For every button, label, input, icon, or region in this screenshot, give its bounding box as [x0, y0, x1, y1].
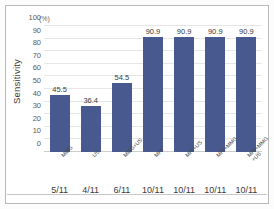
x-axis-category-labels: MMGUSMMG+USMRIMRI+USMRI+MMGMRI+MMG+US — [44, 153, 262, 179]
y-axis-tick-label: 10 — [33, 126, 41, 135]
x-axis-category-cell: MMG — [44, 153, 75, 179]
bar-group[interactable]: 90.9 — [200, 26, 231, 152]
bar-value-label: 36.4 — [83, 96, 98, 105]
x-axis-category-cell: MRI+MMG+US — [231, 153, 262, 179]
y-axis-tick-label: 40 — [33, 88, 41, 97]
x-axis-category-cell: US — [75, 153, 106, 179]
bar[interactable] — [174, 37, 194, 152]
y-axis-tick-label: 90 — [33, 25, 41, 34]
bar[interactable] — [143, 37, 163, 152]
bar-value-label: 90.9 — [146, 27, 161, 36]
y-axis-tick-label: 80 — [33, 38, 41, 47]
bar[interactable] — [205, 37, 225, 152]
bar-value-label: 90.9 — [208, 27, 223, 36]
x-axis-fraction-labels: 5/114/116/1110/1110/1110/1110/11 — [44, 182, 262, 198]
y-axis-tick-label: 50 — [33, 76, 41, 85]
bar[interactable] — [50, 95, 70, 152]
footer-divider — [7, 194, 267, 195]
figure: Sensitivity (%) 1009080706050403020100 4… — [0, 0, 274, 209]
x-axis-category-cell: MMG+US — [106, 153, 137, 179]
bar[interactable] — [112, 83, 132, 152]
bar[interactable] — [236, 37, 256, 152]
y-axis-title-label: Sensitivity — [11, 59, 22, 104]
y-axis-tick-label: 20 — [33, 113, 41, 122]
x-axis-category-cell: MRI — [137, 153, 168, 179]
bar-group[interactable]: 45.5 — [44, 26, 75, 152]
bar-series: 45.536.454.590.990.990.990.9 — [44, 26, 262, 152]
x-axis-category-cell: MRI+MMG — [200, 153, 231, 179]
y-axis-tick-label: 100 — [28, 13, 41, 22]
bar-value-label: 54.5 — [115, 73, 130, 82]
y-axis-tick-label: 0 — [37, 139, 41, 148]
bar-group[interactable]: 90.9 — [137, 26, 168, 152]
bar-value-label: 90.9 — [177, 27, 192, 36]
y-axis-title: Sensitivity — [8, 6, 24, 156]
bar-group[interactable]: 36.4 — [75, 26, 106, 152]
y-axis-tick-label: 60 — [33, 63, 41, 72]
plot-area: 1009080706050403020100 45.536.454.590.99… — [44, 26, 262, 152]
bar-group[interactable]: 90.9 — [169, 26, 200, 152]
y-axis-tick-label: 30 — [33, 101, 41, 110]
bar-group[interactable]: 90.9 — [231, 26, 262, 152]
bar-group[interactable]: 54.5 — [106, 26, 137, 152]
y-axis-tick-label: 70 — [33, 50, 41, 59]
x-axis-category-cell: MRI+US — [169, 153, 200, 179]
bar-value-label: 90.9 — [239, 27, 254, 36]
bar[interactable] — [81, 106, 101, 152]
chart-frame: Sensitivity (%) 1009080706050403020100 4… — [5, 5, 269, 204]
bar-value-label: 45.5 — [52, 85, 67, 94]
